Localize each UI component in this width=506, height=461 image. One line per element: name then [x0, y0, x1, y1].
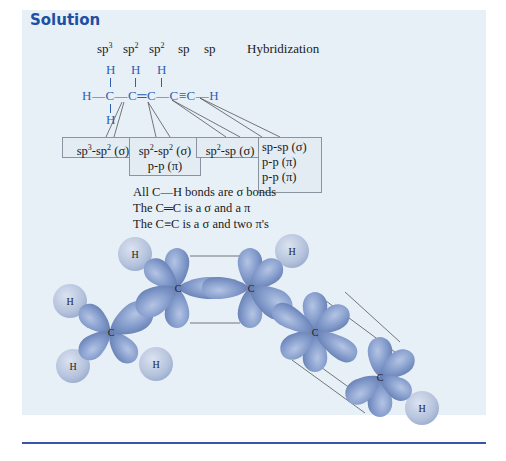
- orbital-diagram: C C C C C H H H H H H: [0, 0, 506, 461]
- label-c5: C: [377, 372, 384, 383]
- label-h: H: [418, 403, 425, 414]
- bottom-rule: [22, 442, 486, 444]
- label-c3: C: [248, 283, 255, 294]
- label-h: H: [69, 361, 76, 372]
- label-c1: C: [108, 327, 115, 338]
- label-c4: C: [312, 327, 319, 338]
- label-h: H: [66, 296, 73, 307]
- label-h: H: [288, 246, 295, 257]
- label-c2: C: [175, 283, 182, 294]
- label-h: H: [152, 359, 159, 370]
- label-h: H: [131, 249, 138, 260]
